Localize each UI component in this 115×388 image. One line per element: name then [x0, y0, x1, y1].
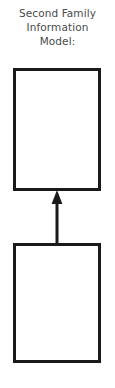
diagram-heading: Second Family Information Model:: [0, 6, 115, 48]
heading-line-1: Second Family: [0, 6, 115, 20]
lower-node-box[interactable]: [13, 243, 101, 363]
heading-line-3: Model:: [0, 34, 115, 48]
heading-line-2: Information: [0, 20, 115, 34]
upper-node-box[interactable]: [13, 68, 101, 191]
diagram-canvas: Second Family Information Model:: [0, 0, 115, 388]
arrow-up-icon: [44, 188, 70, 246]
